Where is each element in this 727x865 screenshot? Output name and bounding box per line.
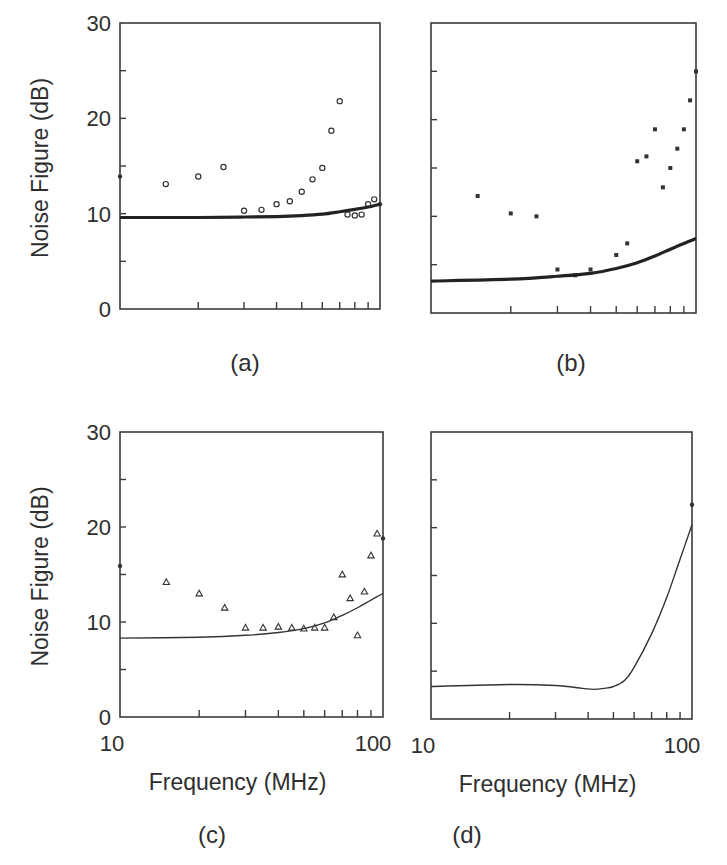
panel-label: (b) (556, 349, 585, 376)
data-point-square (644, 154, 648, 158)
data-point-square (614, 253, 618, 257)
data-point-triangle (196, 590, 202, 596)
data-point-square (555, 268, 559, 272)
simulated-curve (431, 239, 696, 282)
edge-marker-dot (690, 503, 694, 507)
data-point-triangle (374, 530, 380, 536)
data-point-triangle (289, 624, 295, 630)
data-point-square (694, 69, 698, 73)
y-tick-label: 30 (87, 420, 111, 445)
data-point-square (509, 211, 513, 215)
data-point-square (668, 166, 672, 170)
data-point-circle (320, 165, 325, 170)
panel-c: 0102030Noise Figure (dB)10100Frequency (… (27, 420, 391, 848)
data-point-circle (372, 197, 377, 202)
data-point-square (653, 127, 657, 131)
data-point-square (625, 241, 629, 245)
data-point-triangle (260, 624, 266, 630)
y-tick-label: 0 (99, 297, 111, 322)
edge-marker-dot (381, 536, 385, 540)
y-tick-label: 10 (87, 202, 111, 227)
edge-marker-dot (118, 174, 122, 178)
data-point-triangle (368, 552, 374, 558)
simulated-curve (431, 525, 692, 690)
y-tick-label: 0 (99, 705, 111, 730)
data-point-square (688, 98, 692, 102)
plot-frame (120, 23, 380, 309)
data-point-triangle (347, 595, 353, 601)
data-point-circle (196, 174, 201, 179)
panel-b: (b) (431, 23, 698, 376)
panel-label: (a) (230, 349, 259, 376)
x-axis-label: Frequency (MHz) (459, 771, 637, 797)
figure-canvas: 0102030Noise Figure (dB)(a) (b) 0102030N… (0, 0, 727, 865)
data-point-circle (299, 189, 304, 194)
y-tick-label: 20 (87, 515, 111, 540)
data-point-circle (345, 212, 350, 217)
y-axis-label: Noise Figure (dB) (27, 78, 53, 258)
plot-frame (431, 432, 692, 719)
data-point-square (675, 147, 679, 151)
data-point-triangle (361, 588, 367, 594)
x-tick-label: 100 (355, 731, 392, 756)
y-axis-label: Noise Figure (dB) (27, 486, 53, 666)
data-point-triangle (163, 579, 169, 585)
y-tick-label: 30 (87, 11, 111, 36)
data-point-circle (287, 199, 292, 204)
panel-label: (c) (198, 821, 226, 848)
data-point-square (635, 159, 639, 163)
x-tick-label: 100 (664, 733, 701, 758)
data-point-triangle (354, 632, 360, 638)
data-point-square (661, 185, 665, 189)
data-point-circle (359, 212, 364, 217)
simulated-curve (120, 204, 380, 217)
x-axis-label: Frequency (MHz) (149, 769, 327, 795)
y-tick-label: 10 (87, 610, 111, 635)
data-point-triangle (221, 604, 227, 610)
noise-figure-chart-grid: 0102030Noise Figure (dB)(a) (b) 0102030N… (0, 0, 727, 865)
data-point-circle (221, 164, 226, 169)
simulated-curve (120, 594, 383, 639)
data-point-circle (274, 202, 279, 207)
data-point-circle (329, 128, 334, 133)
y-tick-label: 20 (87, 106, 111, 131)
data-point-square (534, 214, 538, 218)
data-point-square (476, 194, 480, 198)
data-point-triangle (242, 624, 248, 630)
x-tick-label: 10 (100, 731, 124, 756)
data-point-triangle (321, 624, 327, 630)
data-point-square (589, 268, 593, 272)
panel-a: 0102030Noise Figure (dB)(a) (27, 11, 382, 376)
plot-frame (431, 23, 696, 313)
data-point-circle (259, 207, 264, 212)
panel-d: 10100Frequency (MHz)(d) (411, 432, 701, 848)
data-point-circle (337, 99, 342, 104)
data-point-circle (241, 208, 246, 213)
panel-label: (d) (452, 821, 481, 848)
data-point-triangle (339, 571, 345, 577)
edge-marker-dot (118, 564, 122, 568)
data-point-circle (163, 182, 168, 187)
data-point-circle (310, 177, 315, 182)
data-point-triangle (275, 623, 281, 629)
data-point-square (682, 127, 686, 131)
x-tick-label: 10 (411, 733, 435, 758)
data-point-circle (352, 213, 357, 218)
